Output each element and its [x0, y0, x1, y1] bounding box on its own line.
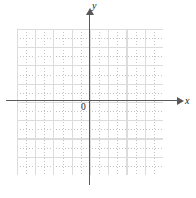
x-axis-line [6, 100, 179, 101]
y-axis-line [89, 14, 90, 185]
origin-label: 0 [81, 103, 86, 113]
coordinate-plane-figure: y x 0 [0, 0, 196, 198]
arrow-right-icon [177, 97, 184, 105]
y-axis-label: y [92, 1, 96, 11]
x-axis-label: x [185, 96, 189, 106]
